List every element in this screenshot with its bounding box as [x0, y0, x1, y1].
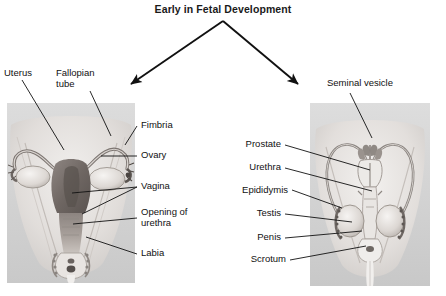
label-seminal-vesicle: Seminal vesicle [327, 78, 393, 89]
label-uterus: Uterus [4, 68, 32, 79]
label-penis: Penis [205, 232, 281, 243]
male-anatomy-image [310, 103, 430, 286]
label-opening-of-urethra: Opening of urethra [141, 207, 187, 228]
branch-arrow-right [223, 21, 298, 84]
label-scrotum: Scrotum [205, 254, 286, 265]
label-urethra: Urethra [205, 162, 281, 173]
figure-title: Early in Fetal Development [0, 3, 446, 15]
label-epididymis: Epididymis [205, 185, 288, 196]
label-fimbria: Fimbria [141, 120, 173, 131]
label-vagina: Vagina [141, 181, 170, 192]
figure-canvas: Early in Fetal Development [0, 0, 446, 296]
label-fallopian-tube: Fallopian tube [56, 68, 95, 89]
female-anatomy-image [7, 103, 135, 283]
label-labia: Labia [141, 248, 164, 259]
female-image-bottom-margin [7, 283, 135, 296]
label-prostate: Prostate [205, 139, 281, 150]
label-testis: Testis [205, 208, 281, 219]
branch-arrow-left [131, 21, 223, 84]
label-ovary: Ovary [141, 150, 166, 161]
